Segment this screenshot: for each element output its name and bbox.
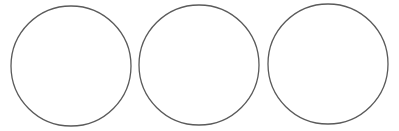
circle-2: [139, 5, 259, 125]
circle-3: [268, 4, 388, 124]
circle-1: [11, 6, 131, 126]
circles-diagram: [0, 0, 399, 131]
